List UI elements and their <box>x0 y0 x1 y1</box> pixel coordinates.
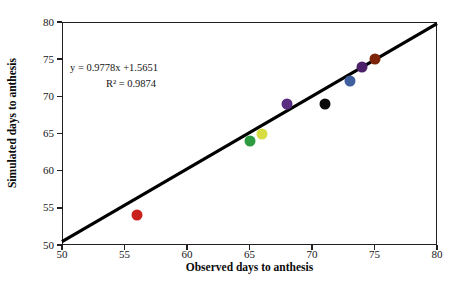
y-tick-label: 65 <box>28 128 54 139</box>
x-tick-label: 65 <box>235 249 265 260</box>
y-tick-label: 60 <box>28 165 54 176</box>
data-point <box>282 98 293 109</box>
y-tick-mark <box>57 21 62 23</box>
plot-area <box>62 22 437 245</box>
y-tick-label: 75 <box>28 54 54 65</box>
data-point <box>344 76 355 87</box>
data-point <box>132 210 143 221</box>
data-point <box>257 128 268 139</box>
y-axis-title: Simulated days to anthesis <box>0 0 24 245</box>
data-point <box>244 135 255 146</box>
data-point <box>369 54 380 65</box>
regression-annotation: y = 0.9778x +1.5651 R² = 0.9874 <box>68 60 208 93</box>
x-axis-title: Observed days to anthesis <box>62 261 437 273</box>
y-tick-label: 55 <box>28 202 54 213</box>
x-tick-label: 55 <box>110 249 140 260</box>
scatter-chart: Simulated days to anthesis 5055606570758… <box>0 0 465 291</box>
regression-r-squared: R² = 0.9874 <box>68 76 208 92</box>
data-point <box>357 61 368 72</box>
y-tick-label: 80 <box>28 17 54 28</box>
y-tick-mark <box>57 58 62 60</box>
x-tick-label: 50 <box>47 249 77 260</box>
regression-equation: y = 0.9778x +1.5651 <box>68 60 208 76</box>
x-tick-mark <box>311 245 313 250</box>
x-tick-label: 70 <box>297 249 327 260</box>
x-tick-mark <box>374 245 376 250</box>
data-point <box>319 98 330 109</box>
y-tick-mark <box>57 170 62 172</box>
y-axis-title-label: Simulated days to anthesis <box>6 57 18 187</box>
y-tick-mark <box>57 133 62 135</box>
x-tick-mark <box>186 245 188 250</box>
x-tick-label: 80 <box>422 249 452 260</box>
x-tick-mark <box>61 245 63 250</box>
y-tick-mark <box>57 207 62 209</box>
x-tick-mark <box>124 245 126 250</box>
x-tick-label: 75 <box>360 249 390 260</box>
x-tick-mark <box>249 245 251 250</box>
y-tick-mark <box>57 96 62 98</box>
y-tick-label: 70 <box>28 91 54 102</box>
x-tick-mark <box>436 245 438 250</box>
x-tick-label: 60 <box>172 249 202 260</box>
